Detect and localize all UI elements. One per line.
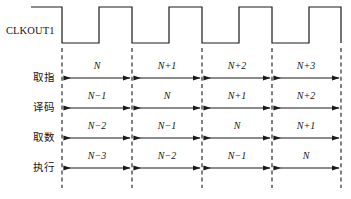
- stage-label-decode: 译码: [8, 102, 54, 113]
- cycle-value-decode-1: N: [164, 91, 171, 101]
- cycle-value-fetch-3: N+3: [297, 61, 315, 71]
- stage-label-fetch: 取指: [8, 72, 54, 83]
- cycle-value-operand-fetch-2: N: [234, 121, 241, 131]
- cycle-value-fetch-0: N: [94, 61, 101, 71]
- cycle-value-execute-2: N−1: [228, 151, 246, 161]
- stage-label-operand-fetch: 取数: [8, 132, 54, 143]
- cycle-value-operand-fetch-1: N−1: [158, 121, 176, 131]
- clock-signal-label: CLKOUT1: [6, 26, 55, 37]
- cycle-value-execute-0: N−3: [88, 151, 106, 161]
- cycle-value-fetch-1: N+1: [158, 61, 176, 71]
- cycle-value-execute-1: N−2: [158, 151, 176, 161]
- cycle-value-operand-fetch-3: N+1: [297, 121, 315, 131]
- stage-label-execute: 执行: [8, 162, 54, 173]
- cycle-value-fetch-2: N+2: [228, 61, 246, 71]
- cycle-value-decode-3: N+2: [297, 91, 315, 101]
- cycle-value-decode-0: N−1: [88, 91, 106, 101]
- cycle-value-execute-3: N: [303, 151, 310, 161]
- cycle-value-operand-fetch-0: N−2: [88, 121, 106, 131]
- cycle-value-decode-2: N+1: [228, 91, 246, 101]
